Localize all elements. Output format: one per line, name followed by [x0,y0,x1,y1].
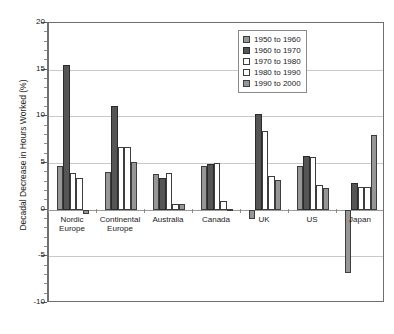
legend-swatch-icon [243,58,250,65]
x-axis-label-us: US [288,215,336,225]
bar [207,164,214,210]
y-tick-minor [44,41,47,42]
y-tick-minor [44,227,47,228]
y-tick-minor [44,246,47,247]
x-tick [96,209,97,213]
bar [111,106,118,210]
bar [124,147,131,210]
legend-swatch-icon [243,36,250,43]
y-tick-minor [44,218,47,219]
legend-item: 1960 to 1970 [243,45,301,56]
bar [303,156,310,210]
y-label-10: 10 [36,111,45,119]
bar [57,166,64,210]
x-tick [144,209,145,213]
legend-item: 1980 to 1990 [243,67,301,78]
y-tick-minor [44,143,47,144]
y-label-5: 5 [41,158,45,166]
y-label--5: -5 [38,251,45,259]
bar [166,173,173,209]
y-tick-minor [44,237,47,238]
y-label-15: 15 [36,65,45,73]
bar [275,180,282,210]
y-tick-minor [44,283,47,284]
y-tick-minor [44,199,47,200]
y-tick-minor [44,97,47,98]
bar [172,204,179,210]
legend-label: 1970 to 1980 [254,58,301,66]
bar [268,176,275,210]
y-tick-minor [44,78,47,79]
legend-swatch-icon [243,69,250,76]
x-tick [336,209,337,213]
x-axis-label-japan: Japan [336,215,384,225]
bar [227,209,234,211]
bar [153,174,160,209]
legend-label: 1950 to 1960 [254,36,301,44]
bar [371,135,378,210]
bar [255,114,262,209]
chart-legend: 1950 to 19601960 to 19701970 to 19801980… [238,30,307,93]
x-axis-label-uk: UK [240,215,288,225]
plot-area [48,22,384,302]
y-tick-minor [44,87,47,88]
legend-item: 1950 to 1960 [243,34,301,45]
bar [364,187,371,209]
y-tick-minor [44,134,47,135]
x-axis-label-australia: Australia [144,215,192,225]
y-tick-minor [44,125,47,126]
bar [159,178,166,210]
y-axis-title: Decadal Decrease in Hours Worked (%) [18,50,28,260]
legend-swatch-icon [243,47,250,54]
bar [297,166,304,210]
y-label-20: 20 [36,18,45,26]
bar [262,131,269,209]
bar [351,183,358,210]
bar [310,157,317,209]
bar [201,166,208,210]
x-tick [192,209,193,213]
x-axis-label-canada: Canada [192,215,240,225]
y-tick-minor [44,59,47,60]
legend-label: 1960 to 1970 [254,47,301,55]
bar [63,65,70,210]
y-tick-minor [44,50,47,51]
y-tick-minor [44,265,47,266]
x-tick [288,209,289,213]
y-tick-minor [44,293,47,294]
y-label-0: 0 [41,205,45,213]
x-axis-label-nordic-europe: Nordic Europe [48,215,96,234]
legend-swatch-icon [243,80,250,87]
y-tick-minor [44,190,47,191]
y-tick-minor [44,106,47,107]
y-tick-minor [44,274,47,275]
x-tick [240,209,241,213]
legend-item: 1970 to 1980 [243,56,301,67]
bar [214,163,221,210]
y-tick-minor [44,171,47,172]
y-tick-minor [44,31,47,32]
y-tick-minor [44,181,47,182]
legend-item: 1990 to 2000 [243,78,301,89]
legend-label: 1980 to 1990 [254,69,301,77]
x-axis-label-continental-europe: Continental Europe [96,215,144,234]
bar [118,147,125,210]
bar [76,178,83,210]
bar [131,162,138,210]
bar [70,173,77,209]
x-tick [48,209,49,213]
bar [358,187,365,209]
bar [220,201,227,209]
bar-chart: Decadal Decrease in Hours Worked (%) 201… [0,0,394,334]
y-tick-minor [44,153,47,154]
y-label--10: -10 [33,298,45,306]
bar [316,185,323,209]
legend-label: 1990 to 2000 [254,80,301,88]
bar [105,172,112,209]
bar [323,188,330,209]
bar [83,210,90,215]
bars-layer [49,23,383,301]
bar [179,204,186,210]
